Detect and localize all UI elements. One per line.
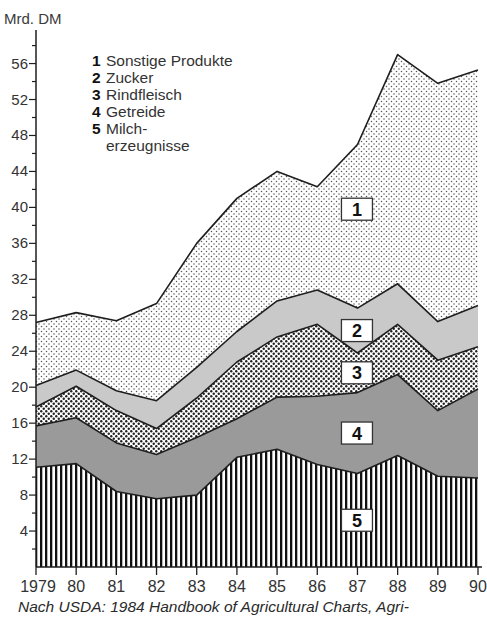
legend-number: 5 xyxy=(92,120,106,154)
area-label-text: 3 xyxy=(352,363,362,383)
x-tick-label: 82 xyxy=(148,578,166,595)
area-label-4: 4 xyxy=(341,422,372,444)
y-tick-label: 28 xyxy=(11,306,28,323)
legend: 1 Sonstige Produkte 2 Zucker 3 Rindfleis… xyxy=(92,52,233,154)
y-tick-label: 44 xyxy=(11,162,28,179)
x-tick-label: 88 xyxy=(389,578,407,595)
area-label-text: 2 xyxy=(352,321,362,341)
y-axis-unit-label: Mrd. DM xyxy=(4,10,62,27)
area-label-1: 1 xyxy=(341,198,372,220)
y-tick-label: 24 xyxy=(11,342,28,359)
legend-label: Milch- erzeugnisse xyxy=(106,120,190,154)
legend-label: Rindfleisch xyxy=(106,86,182,103)
x-tick-label: 84 xyxy=(228,578,246,595)
x-tick-label: 86 xyxy=(308,578,326,595)
area-label-2: 2 xyxy=(341,320,372,342)
legend-label: Getreide xyxy=(106,103,165,120)
y-tick-label: 48 xyxy=(11,126,28,143)
area-label-5: 5 xyxy=(341,509,372,531)
y-tick-label: 52 xyxy=(11,91,28,108)
chart-svg: 4812162024283236404448525619798081828384… xyxy=(0,0,487,619)
legend-number: 4 xyxy=(92,103,106,120)
x-tick-label: 81 xyxy=(107,578,125,595)
legend-label: Sonstige Produkte xyxy=(106,52,233,69)
legend-item-1: 1 Sonstige Produkte xyxy=(92,52,233,69)
y-tick-label: 40 xyxy=(11,198,28,215)
y-tick-label: 20 xyxy=(11,378,28,395)
y-tick-label: 36 xyxy=(11,234,28,251)
legend-item-3: 3 Rindfleisch xyxy=(92,86,233,103)
x-tick-label: 85 xyxy=(268,578,286,595)
legend-number: 3 xyxy=(92,86,106,103)
y-tick-label: 56 xyxy=(11,55,28,72)
area-label-text: 1 xyxy=(352,200,362,220)
area-label-3: 3 xyxy=(341,362,372,384)
x-tick-label: 1979 xyxy=(20,578,56,595)
y-tick-label: 8 xyxy=(20,486,28,503)
legend-item-4: 4 Getreide xyxy=(92,103,233,120)
y-tick-label: 16 xyxy=(11,414,28,431)
y-tick-label: 12 xyxy=(11,450,28,467)
legend-number: 1 xyxy=(92,52,106,69)
x-tick-label: 83 xyxy=(188,578,206,595)
area-label-text: 4 xyxy=(352,424,362,444)
source-caption: Nach USDA: 1984 Handbook of Agricultural… xyxy=(18,598,409,616)
area-label-text: 5 xyxy=(352,511,362,531)
x-tick-label: 90 xyxy=(469,578,487,595)
x-tick-label: 80 xyxy=(67,578,85,595)
legend-label: Zucker xyxy=(106,69,153,86)
legend-number: 2 xyxy=(92,69,106,86)
x-tick-label: 87 xyxy=(349,578,367,595)
y-tick-label: 32 xyxy=(11,270,28,287)
y-tick-label: 4 xyxy=(20,522,28,539)
legend-item-5: 5 Milch- erzeugnisse xyxy=(92,120,233,154)
legend-item-2: 2 Zucker xyxy=(92,69,233,86)
x-tick-label: 89 xyxy=(429,578,447,595)
